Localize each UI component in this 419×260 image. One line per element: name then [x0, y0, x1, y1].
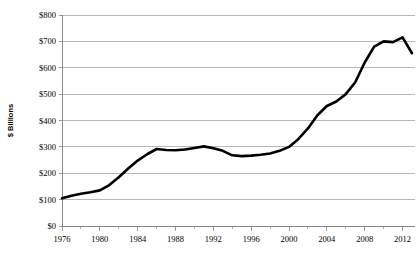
data-series	[62, 37, 412, 198]
x-tick-label: 2000	[281, 234, 298, 244]
y-axis-title-text: $ Billions	[6, 104, 15, 137]
x-tick-label: 1984	[129, 234, 147, 244]
y-tick-label: $100	[39, 195, 56, 205]
y-tick-label: $600	[39, 63, 56, 73]
x-axis-tick-labels: 1976198019841988199219962000200420082012	[54, 234, 412, 244]
y-tick-label: $300	[39, 142, 56, 152]
x-tick-label: 1988	[167, 234, 184, 244]
x-tick-label: 2004	[318, 234, 336, 244]
series-line	[62, 37, 412, 198]
x-tick-label: 2008	[356, 234, 373, 244]
y-tick-label: $700	[39, 36, 56, 46]
x-tick-label: 1976	[54, 234, 71, 244]
y-tick-label: $200	[39, 168, 56, 178]
gridlines	[62, 15, 415, 226]
y-tick-label: $400	[39, 116, 56, 126]
y-axis-title: $ Billions	[6, 104, 15, 137]
y-tick-label: $800	[39, 10, 56, 20]
x-tick-label: 1992	[205, 234, 222, 244]
x-tick-label: 1996	[243, 234, 260, 244]
x-tick-label: 2012	[394, 234, 411, 244]
y-tick-label: $0	[48, 221, 57, 231]
y-tick-label: $500	[39, 89, 56, 99]
x-tick-label: 1980	[91, 234, 108, 244]
x-axis	[62, 226, 415, 231]
y-axis	[59, 15, 63, 226]
line-chart: $800$700$600$500$400$300$200$100$0 19761…	[0, 0, 419, 260]
chart-container: $800$700$600$500$400$300$200$100$0 19761…	[0, 0, 419, 260]
y-axis-tick-labels: $800$700$600$500$400$300$200$100$0	[39, 10, 56, 231]
